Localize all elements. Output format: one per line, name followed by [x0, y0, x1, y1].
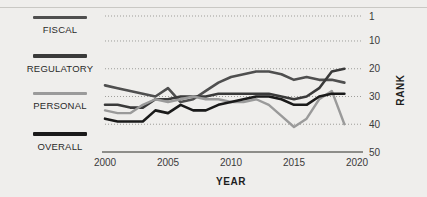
x-tick-label-2010: 2010	[220, 157, 243, 168]
x-tick-label-2000: 2000	[94, 157, 117, 168]
x-tick-label-2015: 2015	[283, 157, 306, 168]
chart-y-tick-labels: 11020304050	[369, 11, 381, 158]
x-tick-label-2005: 2005	[157, 157, 180, 168]
y-axis-title: RANK	[395, 74, 406, 105]
y-tick-label-30: 30	[369, 91, 381, 102]
x-tick-label-2020: 2020	[346, 157, 369, 168]
y-tick-label-10: 10	[369, 35, 381, 46]
y-tick-label-50: 50	[369, 147, 381, 158]
y-tick-label-1: 1	[369, 11, 375, 22]
chart-screenshot: FISCAL REGULATORY PERSONAL OVERALL 11020…	[0, 0, 427, 197]
x-axis-title: YEAR	[216, 176, 246, 187]
chart-plot-area: 11020304050 20002005201020152020 YEAR RA…	[0, 0, 427, 197]
chart-series-group	[105, 69, 344, 127]
y-tick-label-20: 20	[369, 63, 381, 74]
chart-x-tick-labels: 20002005201020152020	[94, 157, 369, 168]
y-tick-label-40: 40	[369, 119, 381, 130]
series-line-fiscal	[105, 72, 344, 103]
line-chart-svg: 11020304050 20002005201020152020 YEAR RA…	[0, 0, 427, 197]
